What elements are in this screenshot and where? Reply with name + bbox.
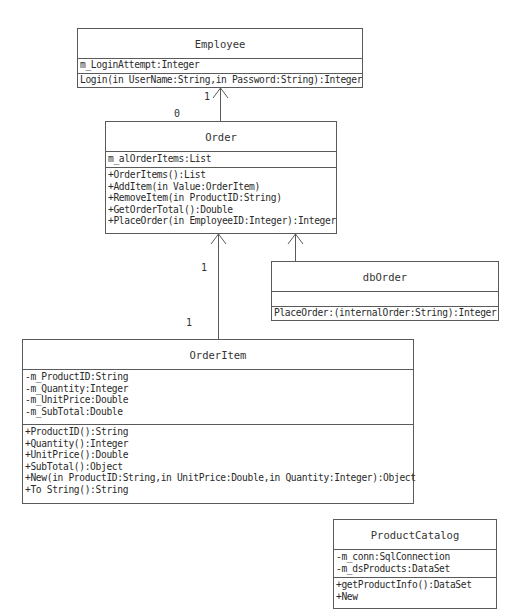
multiplicity-orderitem-end: 1 (186, 317, 192, 328)
multiplicity-order-end: 1 (201, 262, 207, 273)
class-name: Order (106, 122, 336, 152)
attributes-compartment: -m_conn:SqlConnection -m_dsProducts:Data… (334, 550, 496, 578)
operation: +Quantity():Integer (25, 438, 411, 450)
multiplicity-employee-end: 1 (204, 91, 210, 102)
class-orderitem[interactable]: OrderItem -m_ProductID:String -m_Quantit… (22, 339, 414, 504)
operation: Login(in UserName:String,in Password:Str… (80, 74, 360, 86)
multiplicity-order-end: 0 (174, 108, 180, 119)
operation: +New(in ProductID:String,in UnitPrice:Do… (25, 472, 411, 484)
attribute: -m_dsProducts:DataSet (336, 563, 494, 575)
attribute: -m_ProductID:String (25, 371, 411, 383)
class-order[interactable]: Order m_alOrderItems:List +OrderItems():… (105, 121, 337, 234)
attributes-compartment: m_alOrderItems:List (106, 152, 336, 168)
attribute: -m_UnitPrice:Double (25, 394, 411, 406)
class-dborder[interactable]: dbOrder PlaceOrder:(internalOrder:String… (271, 261, 499, 321)
operation: +OrderItems():List (108, 169, 334, 181)
attribute: -m_conn:SqlConnection (336, 551, 494, 563)
attribute: -m_Quantity:Integer (25, 383, 411, 395)
operation: +To String():String (25, 484, 411, 496)
class-name: ProductCatalog (334, 520, 496, 550)
class-employee[interactable]: Employee m_LoginAttempt:Integer Login(in… (77, 28, 363, 88)
class-name: OrderItem (23, 340, 413, 370)
attribute: m_alOrderItems:List (108, 153, 334, 165)
operation: +GetOrderTotal():Double (108, 204, 334, 216)
operation: +RemoveItem(in ProductID:String) (108, 192, 334, 204)
attribute: m_LoginAttempt:Integer (80, 59, 360, 71)
attributes-compartment (272, 292, 498, 307)
operation: +UnitPrice():Double (25, 449, 411, 461)
attributes-compartment: -m_ProductID:String -m_Quantity:Integer … (23, 370, 413, 425)
operation: +SubTotal():Object (25, 461, 411, 473)
operations-compartment: +getProductInfo():DataSet +New (334, 578, 496, 603)
class-name: Employee (78, 29, 362, 59)
operation: +AddItem(in Value:OrderItem) (108, 181, 334, 193)
operations-compartment: +ProductID():String +Quantity():Integer … (23, 425, 413, 496)
operation: +ProductID():String (25, 426, 411, 438)
operation: +PlaceOrder(in EmployeeID:Integer):Integ… (108, 215, 334, 227)
operations-compartment: Login(in UserName:String,in Password:Str… (78, 74, 362, 87)
attribute: -m_SubTotal:Double (25, 406, 411, 418)
operations-compartment: +OrderItems():List +AddItem(in Value:Ord… (106, 168, 336, 228)
operations-compartment: PlaceOrder:(internalOrder:String):Intege… (272, 307, 498, 320)
operation: PlaceOrder:(internalOrder:String):Intege… (274, 307, 496, 319)
class-productcatalog[interactable]: ProductCatalog -m_conn:SqlConnection -m_… (333, 519, 497, 609)
operation: +getProductInfo():DataSet (336, 579, 494, 591)
attributes-compartment: m_LoginAttempt:Integer (78, 59, 362, 74)
operation: +New (336, 591, 494, 603)
class-name: dbOrder (272, 262, 498, 292)
